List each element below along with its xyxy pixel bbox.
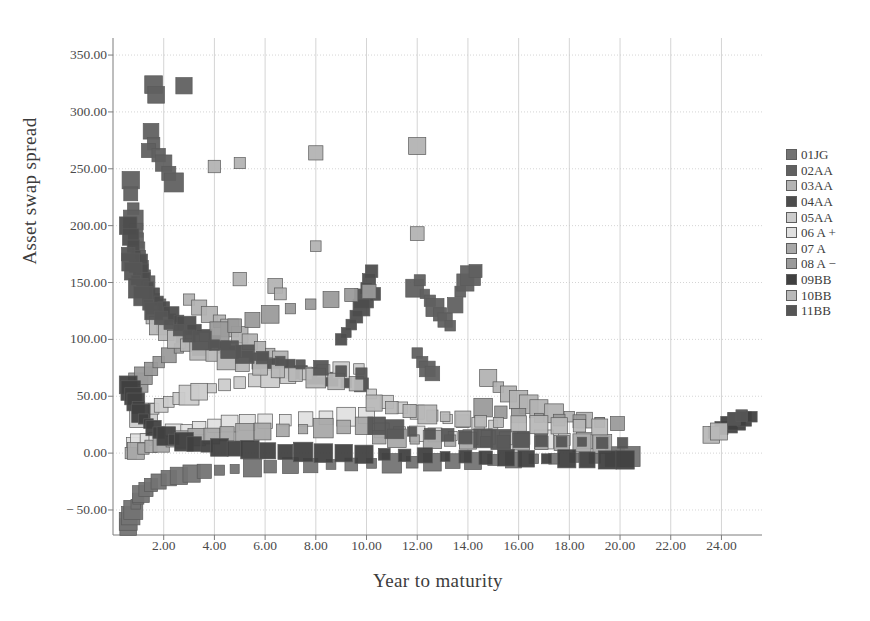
legend-item[interactable]: 09BB	[786, 272, 868, 288]
data-point	[197, 464, 211, 478]
legend-item-label: 10BB	[801, 289, 831, 302]
data-point	[314, 444, 333, 463]
data-point	[219, 379, 231, 391]
data-point	[736, 410, 748, 422]
data-point	[573, 420, 585, 432]
data-point	[245, 313, 260, 328]
data-point	[710, 423, 727, 440]
data-point	[558, 450, 576, 468]
data-point	[366, 395, 382, 411]
legend-item[interactable]: 05AA	[786, 209, 868, 225]
legend-swatch-icon	[786, 196, 797, 207]
legend-item[interactable]: 10BB	[786, 287, 868, 303]
legend-item[interactable]: 01JG	[786, 147, 868, 163]
data-point	[241, 441, 259, 459]
data-point	[577, 437, 586, 446]
legend-swatch-icon	[786, 290, 797, 301]
legend-item[interactable]: 07 A	[786, 241, 868, 257]
data-point	[479, 451, 492, 464]
data-point	[475, 415, 487, 427]
data-point	[398, 449, 411, 462]
data-point	[306, 299, 316, 309]
legend-swatch-icon	[786, 180, 797, 191]
legend-item-label: 04AA	[801, 195, 833, 208]
legend-item[interactable]: 02AA	[786, 163, 868, 179]
data-point	[298, 412, 312, 426]
data-point	[440, 452, 450, 462]
data-point	[385, 420, 404, 439]
data-point	[362, 285, 376, 299]
data-point	[511, 416, 526, 431]
data-point	[148, 87, 165, 104]
data-point	[356, 368, 367, 379]
data-point	[314, 360, 329, 375]
data-point	[617, 438, 627, 448]
data-point	[440, 412, 450, 422]
data-point	[207, 384, 216, 393]
data-point	[256, 351, 269, 364]
data-point	[459, 450, 472, 463]
legend-item-label: 06 A +	[801, 226, 836, 239]
legend-swatch-icon	[786, 165, 797, 176]
data-point	[441, 429, 454, 442]
data-point	[410, 227, 424, 241]
data-point	[276, 356, 285, 365]
data-point	[495, 406, 507, 418]
data-point	[261, 306, 279, 324]
legend-item[interactable]: 03AA	[786, 178, 868, 194]
legend-swatch-icon	[786, 274, 797, 285]
data-point	[414, 275, 425, 286]
data-point	[455, 411, 471, 427]
data-point	[424, 428, 435, 439]
data-point	[296, 360, 305, 369]
legend-item[interactable]: 06 A +	[786, 225, 868, 241]
data-point	[597, 437, 608, 448]
data-point	[228, 319, 242, 333]
data-point	[191, 383, 208, 400]
data-point	[498, 449, 515, 466]
data-point	[124, 187, 138, 201]
data-point	[616, 451, 634, 469]
data-point	[345, 288, 358, 301]
data-point	[289, 368, 303, 382]
data-point	[474, 429, 493, 448]
legend-swatch-icon	[786, 305, 797, 316]
data-point	[309, 146, 323, 160]
legend-item[interactable]: 04AA	[786, 194, 868, 210]
data-point	[335, 334, 346, 345]
data-point	[277, 424, 290, 437]
data-point	[206, 349, 218, 361]
legend-item-label: 11BB	[801, 304, 831, 317]
data-point	[459, 430, 473, 444]
data-point	[448, 298, 463, 313]
data-point	[469, 265, 482, 278]
data-point	[243, 459, 261, 477]
data-point	[227, 441, 242, 456]
data-point	[209, 340, 219, 350]
data-point	[271, 365, 284, 378]
legend-item-label: 07 A	[801, 242, 826, 255]
data-point	[236, 345, 254, 363]
data-point	[403, 404, 416, 417]
data-point	[323, 292, 339, 308]
legend: 01JG02AA03AA04AA05AA06 A +07 A08 A −09BB…	[786, 147, 868, 319]
data-point	[556, 437, 566, 447]
legend-swatch-icon	[786, 227, 797, 238]
data-point	[192, 331, 211, 350]
legend-item-label: 01JG	[801, 148, 828, 161]
data-point	[336, 366, 347, 377]
legend-item[interactable]: 08 A −	[786, 256, 868, 272]
data-point	[409, 137, 426, 154]
data-point	[210, 322, 229, 341]
data-point	[355, 445, 373, 463]
data-point	[425, 366, 439, 380]
data-point	[233, 272, 246, 285]
data-point	[234, 158, 245, 169]
data-point	[187, 437, 202, 452]
data-point	[164, 173, 183, 192]
data-point	[248, 374, 261, 387]
data-point	[386, 401, 398, 413]
data-point	[164, 320, 174, 330]
data-point	[491, 429, 511, 449]
legend-item[interactable]: 11BB	[786, 303, 868, 319]
